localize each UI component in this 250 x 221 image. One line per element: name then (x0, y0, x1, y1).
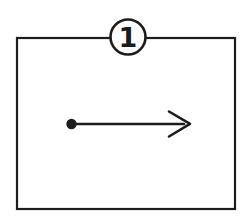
callout-badge: 1 (111, 20, 146, 55)
diagram-svg: 1 (0, 0, 250, 221)
diagram-canvas: 1 (0, 0, 250, 221)
callout-number: 1 (119, 22, 138, 53)
arrow (66, 112, 190, 137)
